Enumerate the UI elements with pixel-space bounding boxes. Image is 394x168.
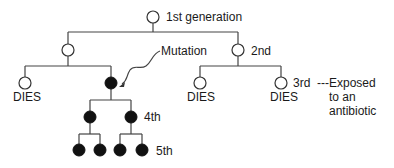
mutated-bacterium-gen5-4 [136,144,148,156]
label-gen2: 2nd [251,44,271,58]
mutation-arrow [119,51,160,87]
label-exposed-3: antibiotic [329,104,376,118]
label-dashes: --- [317,76,329,90]
bacterium-gen3-1 [19,77,31,89]
mutated-bacterium-gen3 [105,77,117,89]
mutated-bacterium-gen5-3 [114,144,126,156]
label-gen1: 1st generation [166,10,242,24]
mutated-bacterium-gen4-1 [84,111,96,123]
label-exposed-1: Exposed [329,76,376,90]
bacterium-gen2-left [62,44,74,56]
label-gen3: 3rd [293,76,310,90]
label-gen5: 5th [156,144,173,158]
label-dies-1: DIES [13,90,41,104]
mutated-bacterium-gen5-1 [73,144,85,156]
mutated-bacterium-gen5-2 [94,144,106,156]
bacterium-gen1 [147,11,159,23]
mutated-bacterium-gen4-2 [125,111,137,123]
label-dies-3: DIES [270,90,298,104]
connector-lines [25,23,281,144]
label-gen4: 4th [144,110,161,124]
bacterium-gen3-3 [194,77,206,89]
label-dies-2: DIES [187,90,215,104]
label-mutation: Mutation [161,44,207,58]
label-exposed-2: to an [329,90,356,104]
bacterial-resistance-tree: 1st generation Mutation 2nd 3rd --- Expo… [0,0,394,168]
bacterium-gen3-4 [275,77,287,89]
bacterium-gen2-right [232,44,244,56]
